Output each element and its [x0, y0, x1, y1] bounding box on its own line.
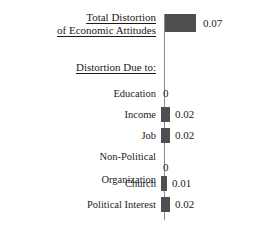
- section-header-label: Distortion Due to:: [76, 61, 156, 74]
- total-distortion-bar: [164, 14, 196, 32]
- bar-zone: 0.02: [160, 194, 256, 214]
- bar-value-political-interest: 0.02: [175, 199, 194, 210]
- row-label-political-interest: Political Interest: [0, 187, 160, 222]
- table-row: Political Interest 0.02: [0, 187, 256, 222]
- chart-title-line-2: of Economic Attitudes: [0, 24, 156, 37]
- total-distortion-value: 0.07: [203, 18, 222, 29]
- row-label-line: Political Interest: [0, 199, 156, 211]
- bar-political-interest: [161, 197, 170, 212]
- chart-title-line-1: Total Distortion: [0, 11, 156, 24]
- chart-title: Total Distortion of Economic Attitudes: [0, 11, 160, 37]
- total-bar-group: 0.07: [164, 14, 222, 32]
- section-header: Distortion Due to:: [0, 57, 160, 75]
- distortion-bar-chart: Total Distortion of Economic Attitudes 0…: [0, 0, 256, 230]
- row-label-line: Non-Political: [0, 151, 156, 163]
